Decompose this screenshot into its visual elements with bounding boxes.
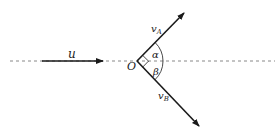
- origin-label: O: [127, 60, 136, 73]
- va-label: vA: [151, 23, 162, 36]
- va-velocity-arrow: [137, 13, 184, 61]
- collision-diagram: u O α β vA vB: [0, 0, 275, 132]
- alpha-label: α: [152, 49, 159, 60]
- diagram-svg: u O α β vA vB: [0, 0, 275, 132]
- va-label-sub: A: [156, 28, 162, 36]
- vb-velocity-arrow: [137, 61, 199, 126]
- vb-label-sub: B: [163, 95, 169, 103]
- u-label: u: [68, 47, 76, 61]
- beta-label: β: [152, 66, 159, 77]
